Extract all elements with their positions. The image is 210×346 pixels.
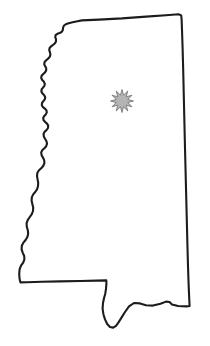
state-boundary-outline — [19, 14, 189, 327]
map-figure — [0, 0, 210, 346]
mississippi-state-map — [0, 0, 210, 346]
